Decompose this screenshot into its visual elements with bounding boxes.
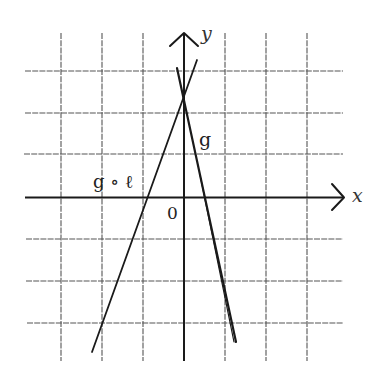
y-axis-label: y: [200, 22, 212, 44]
line-g-shadow: [200, 175, 234, 342]
axes: [25, 33, 344, 361]
labels: y x 0 g g ∘ ℓ: [93, 22, 363, 223]
line-g-label: g: [199, 128, 211, 150]
origin-label: 0: [167, 203, 178, 223]
x-axis-label: x: [352, 184, 363, 206]
line-g-compose-l-label: g ∘ ℓ: [93, 171, 133, 192]
diagram-canvas: y x 0 g g ∘ ℓ: [0, 0, 380, 365]
line-g-compose-l: [92, 60, 197, 352]
plotted-lines: [92, 60, 236, 352]
coordinate-plane-figure: y x 0 g g ∘ ℓ: [0, 0, 380, 365]
